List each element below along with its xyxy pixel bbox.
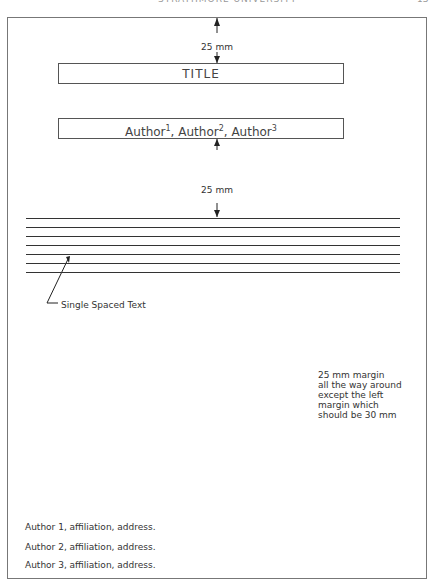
author-name: Author bbox=[231, 125, 271, 139]
arrow-up-icon bbox=[214, 139, 220, 146]
title-box: TITLE bbox=[58, 63, 344, 84]
text-caption: Single Spaced Text bbox=[61, 300, 146, 310]
dimension-arrows bbox=[0, 0, 440, 583]
affiliation-2: Author 2, affiliation, address. bbox=[25, 542, 156, 552]
gap-label: 25 mm bbox=[177, 185, 257, 195]
note-line: should be 30 mm bbox=[318, 410, 402, 420]
margin-note: 25 mm margin all the way around except t… bbox=[318, 370, 402, 420]
author-name: Author bbox=[178, 125, 218, 139]
note-line: 25 mm margin bbox=[318, 370, 402, 380]
arrow-up-icon bbox=[214, 18, 220, 26]
affiliation-1: Author 1, affiliation, address. bbox=[25, 522, 156, 532]
top-margin-label: 25 mm bbox=[177, 42, 257, 52]
note-line: all the way around bbox=[318, 380, 402, 390]
authors-box: Author1, Author2, Author3 bbox=[58, 118, 344, 139]
affiliation-3: Author 3, affiliation, address. bbox=[25, 560, 156, 570]
author-name: Author bbox=[125, 125, 165, 139]
note-line: except the left bbox=[318, 390, 402, 400]
note-line: margin which bbox=[318, 400, 402, 410]
author-sup: 3 bbox=[272, 124, 277, 133]
arrow-down-icon bbox=[214, 210, 220, 217]
arrow-down-icon bbox=[214, 56, 220, 63]
